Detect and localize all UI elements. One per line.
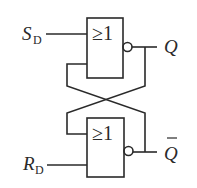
sd-label: S [22, 23, 32, 44]
top-gate-symbol: ≥1 [92, 22, 113, 44]
rd-subscript: D [35, 163, 44, 177]
bottom-gate-symbol: ≥1 [92, 122, 113, 144]
bottom-inversion-bubble [124, 147, 133, 156]
rd-label: R [22, 153, 35, 174]
rs-latch-diagram: ≥1 ≥1 S D R D Q Q [0, 0, 197, 188]
sd-subscript: D [33, 33, 42, 47]
qbar-label: Q [164, 143, 178, 164]
q-label: Q [164, 36, 178, 57]
top-inversion-bubble [123, 43, 132, 52]
